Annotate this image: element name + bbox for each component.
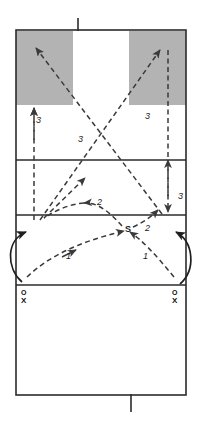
target-zones	[16, 31, 186, 105]
left-target-zone	[16, 31, 73, 105]
attack-label-mid: 3	[78, 135, 83, 144]
right-player-x: X	[172, 297, 177, 305]
set-label-left: 2	[97, 198, 102, 207]
attack-label-left: 3	[36, 116, 41, 125]
pass-path-left	[27, 231, 124, 277]
pass-label-right: 1	[143, 252, 148, 261]
court-svg	[0, 0, 202, 431]
player-movement-paths	[10, 232, 190, 284]
set-label-right: 2	[145, 224, 150, 233]
attack-label-right: 3	[145, 112, 150, 121]
left-player-stack: O X	[21, 289, 26, 305]
setter-marker: S	[125, 225, 131, 234]
right-player-loop	[176, 232, 191, 284]
left-player-x: X	[21, 297, 26, 305]
pass-label-left: 1	[66, 252, 71, 261]
pass-path-right	[130, 232, 174, 277]
left-player-loop	[10, 232, 26, 282]
right-player-stack: O X	[172, 289, 177, 305]
court-diagram: 1 1 2 2 3 3 3 3 S O X O X	[0, 0, 202, 431]
attack-label-far-right: 3	[178, 192, 183, 201]
right-target-zone	[129, 31, 186, 105]
